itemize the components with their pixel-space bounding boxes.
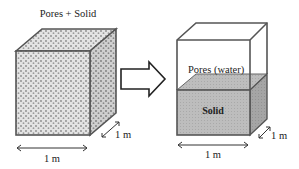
solid-label: Solid [202, 105, 224, 116]
right-depth-label: 1 m [271, 130, 287, 141]
right-depth-dimension-arrow [259, 127, 270, 138]
left-depth-label: 1 m [115, 129, 131, 140]
transform-arrow-icon [121, 62, 165, 96]
right-width-label: 1 m [205, 149, 221, 160]
diagram-canvas: Pores + Solid 1 m 1 m Pores (water) Soli… [0, 0, 299, 169]
left-width-label: 1 m [44, 153, 60, 164]
cube-front-face [16, 51, 90, 135]
separated-box [177, 23, 267, 135]
porous-cube [16, 29, 116, 135]
pores-water-label: Pores (water) [188, 64, 245, 76]
left-cube-label: Pores + Solid [40, 8, 97, 19]
right-width-dimension-arrow [178, 142, 248, 148]
left-width-dimension-arrow [17, 145, 87, 151]
